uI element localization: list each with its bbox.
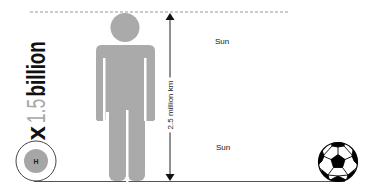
left-arm-gap — [103, 58, 106, 121]
scale-diagram: x 1.5 billion 2.5 million km Sun Sun H — [0, 0, 376, 192]
sun-label-bottom: Sun — [216, 143, 230, 153]
distance-label: 2.5 million km — [166, 78, 176, 133]
multiplier-label: x 1.5 billion — [23, 20, 49, 141]
soccer-ball-icon — [316, 141, 360, 184]
multiplier-unit: billion — [23, 41, 49, 96]
diagram-graphics — [0, 0, 376, 192]
sun-label-top: Sun — [215, 37, 229, 47]
hydrogen-label: H — [33, 158, 38, 165]
right-arm-gap — [144, 58, 147, 121]
multiplier-number: 1.5 — [24, 98, 49, 122]
multiplier-prefix: x — [23, 126, 49, 140]
leg-gap — [126, 110, 129, 182]
